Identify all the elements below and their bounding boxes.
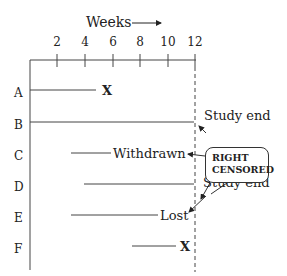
row-label-c: C [14,150,23,162]
tick-label: 12 [187,36,202,48]
study-end-label-b: Study end [204,109,271,122]
row-label-b: B [14,119,23,131]
tick-label: 10 [160,36,175,48]
event-marker-f: X [180,240,190,253]
tick-label: 8 [136,36,144,48]
row-label-f: F [14,243,22,255]
tick-label: 6 [109,36,117,48]
row-label-d: D [14,181,24,193]
event-marker-a: X [102,84,112,97]
axis-title: Weeks [86,15,132,29]
right-censored-callout: RIGHT CENSORED [205,147,269,183]
lost-label: Lost [160,209,188,222]
row-label-a: A [14,87,23,99]
callout-line1: RIGHT [212,152,268,164]
survival-diagram: Weeks 2 4 6 8 10 12 A B C D E F X Study … [0,0,287,276]
tick-label: 4 [81,36,89,48]
tick-label: 2 [53,36,61,48]
callout-line2: CENSORED [212,164,268,176]
withdrawn-label: Withdrawn [113,147,186,160]
row-label-e: E [14,212,23,224]
